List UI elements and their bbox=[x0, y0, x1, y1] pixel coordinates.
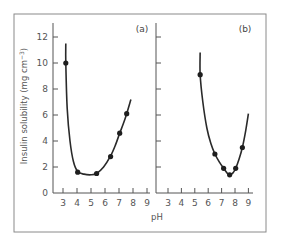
data-point bbox=[198, 72, 203, 77]
y-tick-label: 12 bbox=[37, 32, 48, 42]
data-point bbox=[94, 171, 99, 176]
y-tick-label: 0 bbox=[42, 188, 48, 198]
y-tick-label: 2 bbox=[42, 162, 48, 172]
x-tick-label: 8 bbox=[232, 198, 238, 208]
solubility-chart: Insulin solubility (mg cm−3) pH (a) (b) … bbox=[0, 0, 281, 238]
x-tick-label: 7 bbox=[219, 198, 225, 208]
figure-frame bbox=[14, 14, 266, 232]
data-point bbox=[124, 111, 129, 116]
x-tick-label: 4 bbox=[74, 198, 80, 208]
data-point bbox=[117, 131, 122, 136]
data-point bbox=[75, 170, 80, 175]
x-tick-label: 5 bbox=[192, 198, 198, 208]
data-point bbox=[212, 151, 217, 156]
x-tick-label: 6 bbox=[102, 198, 108, 208]
data-point bbox=[240, 145, 245, 150]
data-point bbox=[63, 60, 68, 65]
x-tick-label: 3 bbox=[60, 198, 66, 208]
x-tick-label: 8 bbox=[130, 198, 136, 208]
data-point bbox=[227, 172, 232, 177]
data-point bbox=[108, 154, 113, 159]
x-tick-label: 9 bbox=[246, 198, 252, 208]
x-tick-label: 4 bbox=[179, 198, 185, 208]
x-tick-label: 5 bbox=[88, 198, 94, 208]
x-tick-label: 3 bbox=[165, 198, 171, 208]
y-tick-label: 10 bbox=[37, 58, 49, 68]
panel-b-label: (b) bbox=[239, 24, 252, 34]
x-tick-label: 9 bbox=[144, 198, 150, 208]
x-tick-label: 6 bbox=[205, 198, 211, 208]
y-axis-title: Insulin solubility (mg cm−3) bbox=[18, 48, 29, 164]
y-tick-label: 6 bbox=[42, 110, 48, 120]
x-tick-label: 7 bbox=[116, 198, 122, 208]
y-tick-label: 8 bbox=[42, 84, 48, 94]
data-point bbox=[233, 166, 238, 171]
panel-a-label: (a) bbox=[136, 24, 149, 34]
data-point bbox=[221, 166, 226, 171]
y-tick-label: 4 bbox=[42, 136, 48, 146]
x-axis-title: pH bbox=[151, 212, 163, 222]
